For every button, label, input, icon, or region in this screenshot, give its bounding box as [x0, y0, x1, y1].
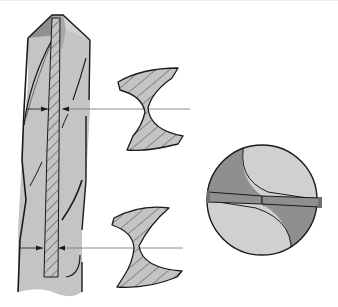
section-lower: [112, 207, 182, 287]
diagram-canvas: [0, 0, 338, 307]
drill-web-diagram: [0, 0, 338, 307]
end-view: [200, 140, 330, 270]
drill-side-view: [18, 15, 90, 296]
